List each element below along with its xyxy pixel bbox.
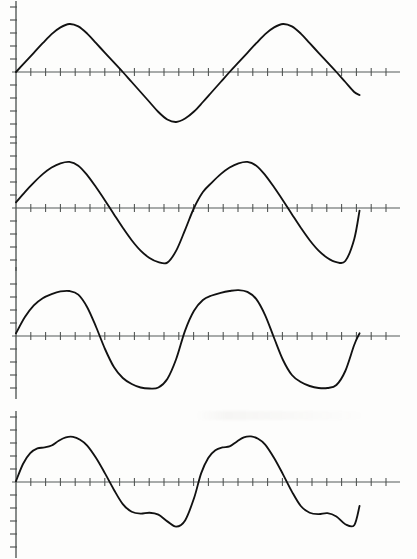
waveform-panel-2 bbox=[0, 136, 417, 272]
waveform-plot-4 bbox=[0, 410, 417, 559]
waveform-plot-3 bbox=[0, 264, 417, 400]
waveform-plot-1 bbox=[0, 0, 417, 138]
waveform-plot-2 bbox=[0, 136, 417, 272]
waveform-panel-1 bbox=[0, 0, 417, 138]
waveform-panel-4 bbox=[0, 410, 417, 559]
waveform-curve bbox=[16, 24, 360, 122]
waveform-panel-3 bbox=[0, 264, 417, 400]
scanned-figure-page bbox=[0, 0, 417, 559]
waveform-curve bbox=[16, 162, 360, 264]
waveform-curve bbox=[16, 290, 360, 389]
